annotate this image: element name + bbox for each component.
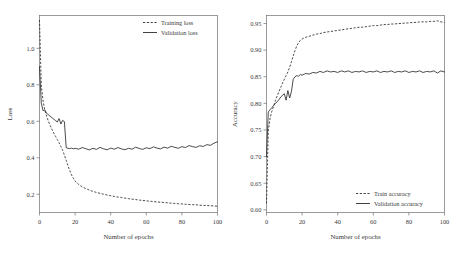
loss-y-tickmarks [37, 48, 40, 194]
y-tick-label: 0.8 [27, 81, 35, 88]
legend-label-validation-loss: Validation loss [161, 29, 198, 36]
y-tick-label: 0.80 [250, 100, 261, 107]
x-tick-label: 80 [406, 218, 412, 225]
loss-chart-svg: 020406080100 0.20.40.60.81.0 Number of e… [0, 0, 229, 255]
y-tick-label: 0.4 [27, 154, 36, 161]
x-tick-label: 60 [143, 218, 149, 225]
x-tick-label: 60 [370, 218, 376, 225]
accuracy-x-axis-title: Number of epochs [330, 233, 381, 240]
loss-plot-frame [40, 16, 218, 213]
legend-label-validation-accuracy: Validation accuracy [374, 200, 424, 207]
accuracy-legend: Train accuracy Validation accuracy [356, 190, 424, 207]
series-validation-loss [40, 67, 218, 150]
figure-two-panel-training-curves: 020406080100 0.20.40.60.81.0 Number of e… [0, 0, 458, 255]
accuracy-y-axis-title: Accuracy [231, 100, 238, 127]
y-tick-label: 0.90 [250, 46, 261, 53]
x-tick-label: 80 [179, 218, 185, 225]
y-tick-label: 0.75 [250, 126, 261, 133]
series-training-loss [40, 20, 218, 206]
x-tick-label: 40 [335, 218, 341, 225]
accuracy-chart-svg: 020406080100 0.600.650.700.750.800.850.9… [229, 0, 458, 255]
loss-y-axis-title: Loss [6, 107, 13, 120]
y-tick-label: 0.85 [250, 73, 261, 80]
y-tick-label: 1.0 [27, 45, 35, 52]
accuracy-x-tickmarks [267, 213, 445, 216]
accuracy-y-tickmarks [264, 23, 267, 209]
loss-x-axis-title: Number of epochs [103, 233, 154, 240]
accuracy-x-tick-labels: 020406080100 [265, 218, 449, 225]
x-tick-label: 0 [265, 218, 268, 225]
loss-y-tick-labels: 0.20.40.60.81.0 [27, 45, 36, 198]
panel-accuracy-chart: 020406080100 0.600.650.700.750.800.850.9… [229, 0, 458, 255]
x-tick-label: 40 [108, 218, 114, 225]
y-tick-label: 0.6 [27, 118, 35, 125]
panel-loss-chart: 020406080100 0.20.40.60.81.0 Number of e… [0, 0, 229, 255]
legend-label-train-accuracy: Train accuracy [374, 190, 412, 197]
y-tick-label: 0.95 [250, 20, 261, 27]
accuracy-y-tick-labels: 0.600.650.700.750.800.850.900.95 [250, 20, 261, 213]
series-train-accuracy [267, 21, 445, 204]
accuracy-plot-frame [267, 16, 445, 213]
x-tick-label: 100 [440, 218, 450, 225]
y-tick-label: 0.70 [250, 153, 261, 160]
series-validation-accuracy [267, 71, 445, 157]
x-tick-label: 20 [72, 218, 78, 225]
legend-label-training-loss: Training loss [161, 19, 194, 26]
y-tick-label: 0.2 [27, 191, 35, 198]
x-tick-label: 100 [213, 218, 223, 225]
loss-x-tickmarks [40, 213, 218, 216]
x-tick-label: 0 [38, 218, 41, 225]
loss-x-tick-labels: 020406080100 [38, 218, 222, 225]
y-tick-label: 0.60 [250, 206, 261, 213]
y-tick-label: 0.65 [250, 180, 261, 187]
loss-legend: Training loss Validation loss [143, 19, 198, 36]
x-tick-label: 20 [299, 218, 305, 225]
